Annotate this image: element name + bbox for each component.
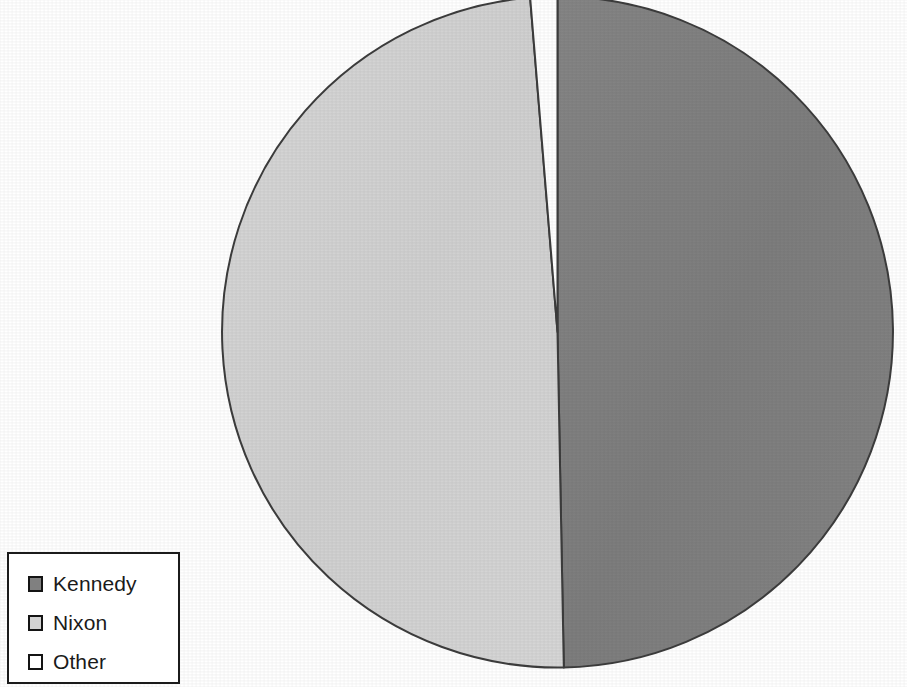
chart-legend: Kennedy Nixon Other <box>7 552 180 684</box>
legend-item-nixon[interactable]: Nixon <box>28 603 178 642</box>
legend-label-nixon: Nixon <box>53 612 107 633</box>
legend-swatch-kennedy <box>28 576 43 592</box>
legend-label-other: Other <box>53 651 106 672</box>
legend-label-kennedy: Kennedy <box>53 573 137 594</box>
legend-swatch-nixon <box>28 615 43 631</box>
legend-swatch-other <box>28 654 43 670</box>
pie-slice-kennedy[interactable] <box>558 0 893 667</box>
pie-chart-figure: Kennedy Nixon Other <box>0 0 907 687</box>
pie-slice-nixon[interactable] <box>222 0 564 667</box>
legend-item-other[interactable]: Other <box>28 642 178 681</box>
legend-item-kennedy[interactable]: Kennedy <box>28 564 178 603</box>
